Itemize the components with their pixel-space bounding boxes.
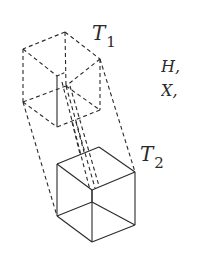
label-t1: T1 xyxy=(92,23,116,43)
label-t2: T2 xyxy=(140,144,164,164)
side-text-line-2: X, xyxy=(161,79,185,103)
translation-lines xyxy=(23,59,135,216)
lower-cube-solid xyxy=(57,147,135,242)
upper-cube-dashed xyxy=(23,32,100,127)
side-text-line-1: H, xyxy=(161,55,185,79)
clipped-side-text: H, X, xyxy=(161,55,185,103)
diagram-canvas: T1 T2 H, X, xyxy=(0,0,206,253)
